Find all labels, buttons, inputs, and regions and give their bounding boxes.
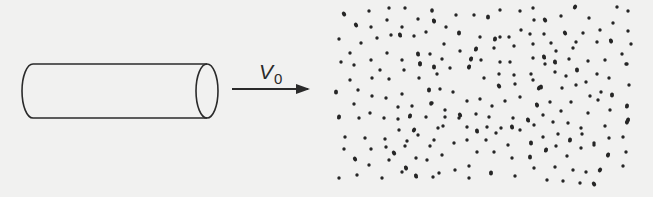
particle-dot <box>518 95 521 99</box>
particle-dot <box>397 128 400 132</box>
particle-dot <box>626 29 629 33</box>
particle-dot <box>553 165 556 169</box>
particle-dot <box>443 108 446 112</box>
particle-dot <box>457 30 461 36</box>
particle-dot <box>624 150 627 154</box>
particle-dot <box>337 114 342 120</box>
particle-dot <box>411 127 417 133</box>
particle-dot <box>531 6 534 10</box>
particle-dot <box>598 28 601 32</box>
particle-dot <box>403 144 406 148</box>
particle-dot <box>432 64 436 70</box>
particle-dot <box>499 126 502 130</box>
particle-dot <box>431 175 434 179</box>
particle-dot <box>569 100 572 104</box>
particle-dot <box>466 64 472 70</box>
particle-dot <box>548 100 551 104</box>
particle-dot <box>467 164 470 168</box>
particle-dot <box>368 111 371 115</box>
particle-dot <box>529 72 532 76</box>
particle-dot <box>575 67 579 73</box>
particle-dot <box>513 174 516 178</box>
particle-dot <box>626 9 629 13</box>
particle-dot <box>496 83 502 90</box>
particle-dot <box>551 120 554 124</box>
particle-dot <box>397 32 402 38</box>
particle-dot <box>586 59 589 63</box>
particle-dot <box>400 92 403 96</box>
particle-dot <box>541 113 544 117</box>
particle-dot <box>625 103 630 109</box>
particle-dot <box>586 111 589 115</box>
particle-dot <box>603 124 606 128</box>
particle-dot <box>457 116 460 120</box>
particle-dot <box>565 154 568 158</box>
particle-dot <box>357 116 360 120</box>
particle-dot <box>531 42 534 46</box>
particle-dot <box>549 41 552 45</box>
particle-dot <box>486 14 490 19</box>
particle-dot <box>369 25 372 29</box>
particle-dot <box>400 25 403 29</box>
particle-dot <box>507 35 510 39</box>
particle-dot <box>529 140 533 146</box>
particle-dot <box>402 68 405 72</box>
particle-dot <box>513 82 516 86</box>
particle-dot <box>497 72 500 76</box>
particle-dot <box>595 40 598 44</box>
velocity-label: V0 <box>259 61 281 82</box>
particle-dot <box>562 30 568 36</box>
particle-dot <box>474 112 477 116</box>
particle-dot <box>494 131 497 135</box>
particle-dot <box>519 28 522 32</box>
particle-dot <box>428 144 431 148</box>
particle-dot <box>413 173 418 179</box>
particle-dot <box>429 101 432 105</box>
particle-dot <box>518 128 521 132</box>
cylinder-shape <box>22 64 218 118</box>
particle-dot <box>592 143 595 147</box>
particle-dot <box>534 102 540 108</box>
particle-dot <box>353 22 359 28</box>
particle-dot <box>554 144 557 148</box>
particle-dot <box>432 138 435 142</box>
particle-dot <box>528 154 532 159</box>
particle-dot <box>410 104 413 108</box>
particle-dot <box>574 83 577 87</box>
particle-dot <box>629 42 632 46</box>
particle-dot <box>440 153 443 157</box>
particle-dot <box>387 158 390 162</box>
particle-dot <box>578 181 581 185</box>
particle-dot <box>510 124 515 130</box>
particle-dot <box>465 99 468 103</box>
particle-dot <box>595 72 598 76</box>
particle-dot <box>363 136 366 140</box>
particle-dot <box>567 57 570 61</box>
particle-dot <box>531 78 534 82</box>
particle-dot <box>498 60 501 64</box>
particle-dot <box>487 115 490 119</box>
particle-dot <box>465 138 468 142</box>
particle-dot <box>511 116 514 120</box>
particle-dot <box>442 42 445 46</box>
particle-dot <box>356 88 359 92</box>
particle-dot <box>405 139 408 143</box>
particle-dot <box>437 171 440 175</box>
particle-dot <box>568 137 573 143</box>
particle-dot <box>369 58 372 62</box>
particle-dot <box>382 116 385 120</box>
particle-dot <box>342 147 345 151</box>
particle-dot <box>579 126 582 130</box>
particle-dot <box>375 36 378 40</box>
particle-dot <box>478 97 481 101</box>
particle-dot <box>453 168 456 172</box>
particle-dot <box>591 181 597 188</box>
particle-dot <box>370 76 373 80</box>
particle-dot <box>581 31 584 35</box>
particle-dot <box>597 167 603 173</box>
particle-dot <box>543 147 548 153</box>
particle-dot <box>512 73 515 77</box>
particle-dot <box>407 113 412 119</box>
particle-dot <box>554 49 557 53</box>
particle-dot <box>539 84 543 89</box>
